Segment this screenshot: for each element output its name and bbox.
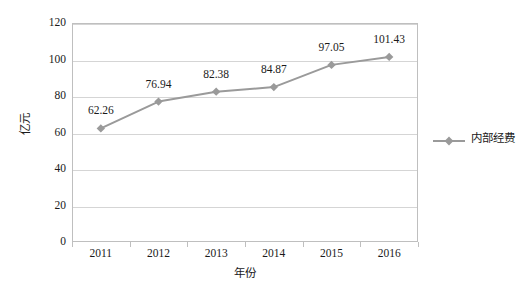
y-axis-tick-label: 120 [26, 17, 66, 29]
data-point-marker [327, 61, 335, 69]
y-axis-tick-label: 100 [26, 54, 66, 66]
line-chart: 020406080100120 亿元 62.2676.9482.3884.879… [0, 0, 532, 304]
x-axis-title: 年份 [72, 266, 418, 280]
data-point-marker [154, 97, 162, 105]
y-axis-tick-label: 0 [26, 236, 66, 248]
data-point-label: 97.05 [306, 41, 358, 53]
legend-label: 内部经费 [471, 132, 515, 145]
y-axis-tick-label: 40 [26, 163, 66, 175]
x-axis-tick-label: 2014 [244, 247, 304, 260]
x-axis-tick-label: 2015 [302, 247, 362, 260]
y-axis-title: 亿元 [19, 113, 31, 135]
data-point-label: 82.38 [190, 68, 242, 80]
x-axis-tick-label: 2013 [186, 247, 246, 260]
legend-marker [432, 133, 466, 145]
data-point-marker [212, 87, 220, 95]
x-axis-tick-label: 2012 [129, 247, 189, 260]
y-axis-tick-label: 60 [26, 127, 66, 139]
x-axis-tick-label: 2016 [359, 247, 419, 260]
data-point-label: 84.87 [248, 63, 300, 75]
data-point-label: 62.26 [75, 104, 127, 116]
series-line-内部经费 [72, 23, 418, 242]
data-point-marker [97, 124, 105, 132]
data-point-marker [270, 83, 278, 91]
x-axis-tick-label: 2011 [71, 247, 131, 260]
data-point-label: 101.43 [363, 33, 415, 45]
data-point-label: 76.94 [133, 78, 185, 90]
x-axis-tick-labels: 201120122013201420152016 [72, 247, 418, 263]
data-point-marker [385, 53, 393, 61]
y-axis-tick-label: 20 [26, 200, 66, 212]
y-axis-tick-label: 80 [26, 90, 66, 102]
legend: 内部经费 [432, 132, 515, 145]
series-polyline [101, 57, 389, 128]
